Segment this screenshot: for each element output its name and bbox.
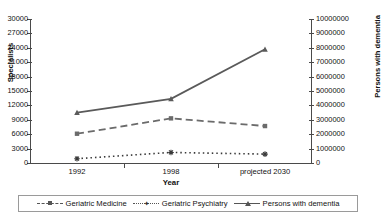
legend-item-geriatric-medicine[interactable]: Geriatric Medicine xyxy=(37,200,127,208)
x-axis-tick-label: projected 2030 xyxy=(220,167,310,176)
axis-tick-label-text: 15000 xyxy=(0,87,28,94)
legend-marker-dashed-square-icon xyxy=(37,200,63,208)
axis-tick-label-text: 9000 xyxy=(0,116,28,123)
legend-marker-dotted-plus-icon: ✦ xyxy=(133,200,159,208)
x-axis-title: Year xyxy=(30,178,312,187)
legend-label: Geriatric Psychiatry xyxy=(162,200,228,208)
axis-tick-label-text: 27000 xyxy=(0,29,28,36)
chart-legend: Geriatric Medicine ✦ Geriatric Psychiatr… xyxy=(18,195,358,212)
x-axis-tick-label: 1992 xyxy=(32,167,122,176)
data-point xyxy=(262,46,268,51)
axis-tick-label-text: 9000000 xyxy=(316,29,376,36)
axis-tick-label-text: 5000000 xyxy=(316,87,376,94)
axis-tick-label-text: 2000000 xyxy=(316,130,376,137)
series-geriatric-medicine xyxy=(75,116,267,136)
x-axis-line xyxy=(30,163,312,164)
legend-label: Persons with dementia xyxy=(263,200,340,208)
axis-tick-label-text: 0 xyxy=(316,159,376,166)
axis-tick-label-text: 3000 xyxy=(0,145,28,152)
data-point xyxy=(262,151,268,157)
axis-tick-label-text: 3000000 xyxy=(316,116,376,123)
axis-tick-label-text: 12000 xyxy=(0,101,28,108)
axis-tick-label-text: 10000000 xyxy=(316,15,376,22)
axis-tick-label-text: 4000000 xyxy=(316,101,376,108)
axis-tick-label-text: 18000 xyxy=(0,73,28,80)
data-point xyxy=(168,150,174,156)
axis-tick-label-text: 0 xyxy=(0,159,28,166)
x-axis-tick xyxy=(124,163,125,168)
data-point xyxy=(74,156,80,162)
data-point xyxy=(75,132,79,136)
series-geriatric-psychiatry xyxy=(74,150,268,162)
axis-tick-label-text: 21000 xyxy=(0,58,28,65)
series-persons-with-dementia xyxy=(74,46,268,115)
legend-item-geriatric-psychiatry[interactable]: ✦ Geriatric Psychiatry xyxy=(133,200,228,208)
legend-item-persons-with-dementia[interactable]: Persons with dementia xyxy=(234,200,340,208)
x-axis-tick-label: 1998 xyxy=(126,167,216,176)
axis-tick-label-text: 7000000 xyxy=(316,58,376,65)
axis-tick-label-text: 1000000 xyxy=(316,145,376,152)
plot-area xyxy=(30,19,312,163)
axis-tick-label-text: 6000 xyxy=(0,130,28,137)
axis-tick-label-text: 6000000 xyxy=(316,73,376,80)
axis-tick-label-text: 8000000 xyxy=(316,44,376,51)
axis-tick-label-text: 30000 xyxy=(0,15,28,22)
data-point xyxy=(169,116,173,120)
legend-label: Geriatric Medicine xyxy=(66,200,127,208)
axis-tick-label-text: 24000 xyxy=(0,44,28,51)
axis-tick xyxy=(309,163,314,164)
data-point xyxy=(263,124,267,128)
legend-marker-solid-triangle-icon xyxy=(234,200,260,208)
x-axis-tick xyxy=(218,163,219,168)
